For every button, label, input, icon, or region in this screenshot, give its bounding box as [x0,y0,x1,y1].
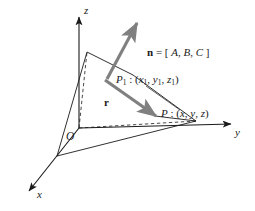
position-vector-label: r [104,97,109,108]
vector-plane-figure: z y x O n = [ A, B, C ] r P1 : (x1, y1, … [0,0,255,211]
position-vector-arrow [105,80,156,116]
p1-subscript: 1 [123,78,127,87]
normal-component-a: A [171,46,178,58]
p-close: ) [205,107,209,119]
origin-label: O [66,131,74,143]
normal-vector-label: n = [ A, B, C ] [147,47,209,58]
normal-vector-equals: = [ [153,46,171,58]
z-axis-label: z [84,5,88,16]
p-colon: : ( [168,107,180,119]
figure-canvas [0,0,255,211]
p1-colon: : ( [126,73,138,85]
normal-component-c: C [196,46,203,58]
y-axis-label: y [235,127,240,138]
normal-close-bracket: ] [203,46,209,58]
p1-close: ) [175,73,179,85]
p1-coord-x: x [139,73,144,85]
p-symbol: P [161,107,168,119]
vector-arrows [105,23,156,116]
p1-coord-x-sub: 1 [144,78,148,87]
point-p-label: P : (x, y, z) [161,108,209,119]
point-p1-label: P1 : (x1, y1, z1) [116,74,179,85]
p1-coord-y-sub: 1 [158,78,162,87]
p1-coord-z-sub: 1 [171,78,175,87]
normal-vector-arrow [107,23,137,79]
p1-symbol: P [116,73,123,85]
y-axis [79,124,231,128]
x-axis-label: x [37,189,42,200]
plane-outline [57,52,196,156]
coordinate-axes [29,17,231,191]
